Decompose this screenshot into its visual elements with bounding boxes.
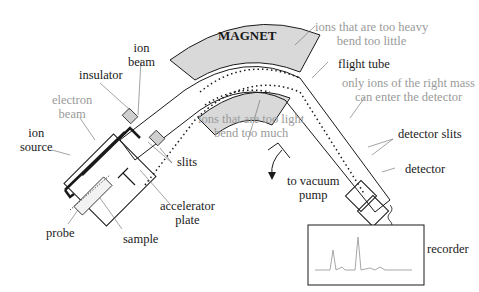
electron-beam-label: electron beam xyxy=(52,93,92,121)
recorder-box xyxy=(308,225,424,285)
ion-beam-label: ion beam xyxy=(128,41,155,69)
magnet-label: MAGNET xyxy=(218,29,277,43)
too-light-label: ions that are too light bend too much xyxy=(198,112,304,140)
ion-source-bracket xyxy=(65,190,74,197)
detector-label: detector xyxy=(405,162,445,176)
right-mass-label: only ions of the right mass can enter th… xyxy=(342,76,475,104)
vacuum-arrow xyxy=(272,150,282,175)
probe-label: probe xyxy=(46,226,74,240)
recorder-label: recorder xyxy=(427,242,469,256)
vacuum-pump-label: to vacuum pump xyxy=(287,174,339,202)
insulator-label: insulator xyxy=(79,68,123,82)
slits-label: slits xyxy=(177,155,197,169)
flight-tube-label: flight tube xyxy=(338,57,390,71)
too-heavy-label: ions that are too heavy bend too little xyxy=(315,20,428,48)
ion-source-label: ion source xyxy=(20,126,53,154)
detector-slits-label: detector slits xyxy=(398,127,462,141)
sample-label: sample xyxy=(123,232,158,246)
accelerator-plate-label: accelerator plate xyxy=(160,199,215,227)
